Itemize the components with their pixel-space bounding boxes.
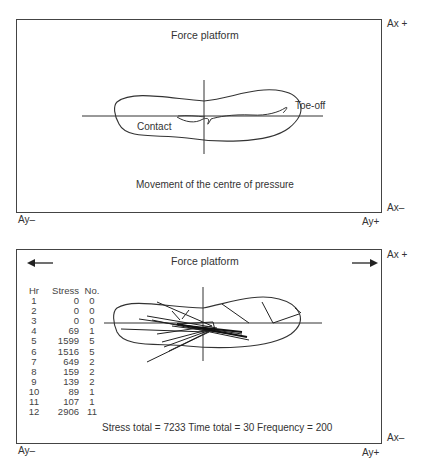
- ax-minus-label-top: Ax–: [387, 202, 404, 213]
- summary-stats: Stress total = 7233 Time total = 30 Freq…: [102, 422, 332, 433]
- ax-plus-label-top: Ax +: [387, 18, 407, 29]
- stress-table: Hr Stress No. 100 200 300 4691 515995 61…: [25, 286, 105, 417]
- bottom-panel-title: Force platform: [171, 255, 239, 267]
- toe-off-label: Toe-off: [295, 100, 325, 111]
- ay-minus-label-top: Ay–: [18, 214, 35, 225]
- top-force-platform-panel: Force platform Toe-off Contact Movement …: [16, 19, 382, 213]
- ay-plus-label-top: Ay+: [362, 216, 379, 227]
- ax-minus-label-bottom: Ax–: [387, 432, 404, 443]
- arrow-left-icon: [27, 259, 53, 267]
- contact-label: Contact: [137, 121, 171, 132]
- ax-plus-label-bottom: Ax +: [387, 249, 407, 260]
- ay-plus-label-bottom: Ay+: [362, 447, 379, 458]
- ay-minus-label-bottom: Ay–: [18, 445, 35, 456]
- table-row: 12290611: [25, 407, 105, 417]
- bottom-force-platform-panel: Force platform Hr Stress No. 100 200 300…: [16, 249, 382, 444]
- top-panel-caption: Movement of the centre of pressure: [136, 179, 294, 190]
- arrow-right-icon: [352, 259, 378, 267]
